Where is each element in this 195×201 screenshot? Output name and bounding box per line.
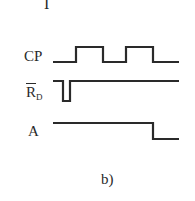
figure-caption: b) [101, 172, 114, 187]
cp-waveform [53, 47, 179, 62]
rd-waveform [53, 81, 179, 101]
a-waveform [53, 123, 179, 139]
timing-waveforms [0, 0, 195, 201]
